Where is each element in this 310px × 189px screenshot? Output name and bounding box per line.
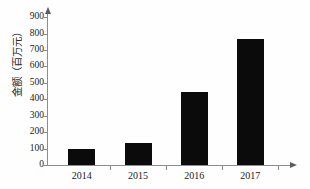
y-axis-tick-label: 900 <box>18 12 44 22</box>
y-axis-tick-label: 300 <box>18 111 44 121</box>
y-axis-tick-mark <box>43 17 47 18</box>
y-axis-tick-mark <box>43 50 47 51</box>
y-axis-tick-mark <box>43 116 47 117</box>
x-axis-category-labels: 2014201520162017 <box>47 170 297 186</box>
y-axis-tick-label: 800 <box>18 29 44 39</box>
y-axis-tick-label: 400 <box>18 94 44 104</box>
y-axis-tick-label: 100 <box>18 144 44 154</box>
y-axis-tick-mark <box>43 83 47 84</box>
y-axis-tick-mark <box>43 149 47 150</box>
x-axis-category-label: 2017 <box>228 170 272 182</box>
x-axis-line <box>47 165 291 166</box>
y-axis-tick-label: 0 <box>18 160 44 170</box>
plot-area <box>47 9 297 166</box>
x-axis-category-label: 2014 <box>60 170 104 182</box>
y-axis-tick-mark <box>43 66 47 67</box>
y-axis-tick-label: 600 <box>18 61 44 71</box>
y-axis-tick-label: 700 <box>18 45 44 55</box>
bar <box>125 143 152 165</box>
y-axis-tick-label: 500 <box>18 78 44 88</box>
x-axis-category-label: 2016 <box>172 170 216 182</box>
y-axis-tick-mark <box>43 99 47 100</box>
y-axis-tick-mark <box>43 165 47 166</box>
bar <box>68 149 95 165</box>
y-axis-tick-label: 200 <box>18 127 44 137</box>
bar-chart: 金额（百万元） 0100200300400500600700800900 201… <box>0 0 310 189</box>
bar <box>237 39 264 165</box>
bar <box>181 92 208 165</box>
y-axis-tick-labels: 0100200300400500600700800900 <box>18 0 44 189</box>
y-axis-tick-mark <box>43 34 47 35</box>
y-axis-tick-mark <box>43 132 47 133</box>
bars-layer <box>47 9 297 165</box>
x-axis-category-label: 2015 <box>116 170 160 182</box>
